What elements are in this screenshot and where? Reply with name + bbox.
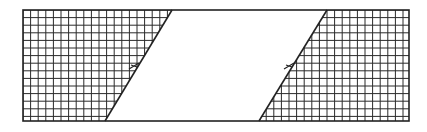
break-marks bbox=[129, 63, 294, 69]
left-grid-hatch bbox=[23, 10, 409, 121]
outer-rectangle bbox=[23, 10, 409, 121]
hatched-trapezoid-diagram bbox=[0, 0, 427, 132]
right-diagonal-boundary bbox=[259, 10, 327, 121]
right-grid-hatch bbox=[23, 10, 409, 121]
left-diagonal-boundary bbox=[105, 10, 172, 121]
